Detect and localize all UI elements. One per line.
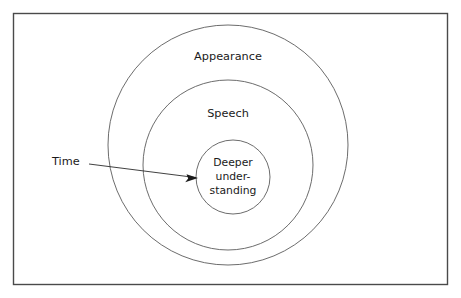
ring-label-inner-line-1: Deeper: [213, 156, 253, 169]
ring-label-speech: Speech: [207, 107, 249, 120]
annotation-label-time: Time: [51, 155, 80, 168]
ring-label-inner-line-3: standing: [210, 184, 257, 197]
concentric-circles-diagram: Time Appearance Speech Deeper under- sta…: [0, 0, 461, 298]
diagram-root: Time Appearance Speech Deeper under- sta…: [0, 0, 461, 298]
ring-label-appearance: Appearance: [194, 50, 262, 63]
ring-label-inner-line-2: under-: [216, 170, 251, 183]
